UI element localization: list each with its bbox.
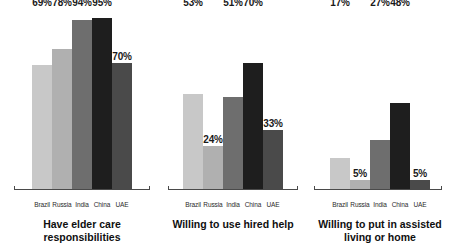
tick-label-uae: UAE: [112, 201, 132, 208]
bar-rect: [410, 180, 430, 189]
tick-label-china: China: [243, 201, 263, 208]
bar-rect: [263, 130, 283, 189]
bar-value-label: 69%: [32, 0, 51, 8]
group-title-line-1: Have elder care: [4, 218, 160, 231]
bar-value-label: 51%: [223, 0, 242, 8]
tick-labels-group-1: Brazil Russia India China UAE: [4, 201, 160, 208]
bar-rect: [243, 63, 263, 189]
group-title-line-2: living or home: [306, 231, 454, 244]
bar-value-label: 17%: [330, 0, 349, 8]
bar-group-1-russia: 78%: [52, 9, 72, 189]
tick-labels-group-2: Brazil Russia India China UAE: [160, 201, 306, 208]
tick-label-india: India: [72, 201, 92, 208]
grouped-bar-chart: 69% 78% 94% 95% 70% Brazil Russia: [0, 0, 454, 252]
axis-line-group-1: [14, 189, 150, 190]
bar-rect: [32, 65, 52, 189]
tick-label-china: China: [390, 201, 410, 208]
bar-rect: [92, 18, 112, 189]
tick-labels-group-3: Brazil Russia India China UAE: [306, 201, 454, 208]
bar-rect: [370, 140, 390, 189]
bar-group-1-brazil: 69%: [32, 9, 52, 189]
bar-rect: [390, 103, 410, 189]
bar-group-3-uae: 5%: [410, 9, 430, 189]
axis-line-group-3: [314, 189, 442, 190]
tick-label-china: China: [92, 201, 112, 208]
bar-value-label: 53%: [183, 0, 202, 8]
tick-label-brazil: Brazil: [330, 201, 350, 208]
group-title-hired-help: Willing to use hired help: [160, 218, 306, 231]
bar-value-label: 95%: [92, 0, 111, 8]
group-title-line-1: Willing to put in assisted: [306, 218, 454, 231]
group-title-assisted-living: Willing to put in assisted living or hom…: [306, 218, 454, 244]
bar-rect: [183, 94, 203, 189]
bar-rect: [112, 63, 132, 189]
bar-value-label: 33%: [263, 118, 282, 129]
chart-group-elder-care: 69% 78% 94% 95% 70% Brazil Russia: [4, 0, 160, 252]
tick-label-india: India: [370, 201, 390, 208]
plot-area-group-2: 53% 24% 51% 70% 33%: [160, 9, 306, 189]
group-title-elder-care: Have elder care responsibilities: [4, 218, 160, 244]
bar-group-3-brazil: 17%: [330, 9, 350, 189]
bar-value-label: 48%: [390, 0, 409, 8]
tick-label-uae: UAE: [410, 201, 430, 208]
chart-group-assisted-living: 17% 5% 27% 48% 5% Brazil Russia: [306, 0, 454, 252]
bar-value-label: 24%: [203, 134, 222, 145]
bar-value-label: 78%: [52, 0, 71, 8]
axis-line-group-2: [168, 189, 298, 190]
bar-group-1-uae: 70%: [112, 9, 132, 189]
bar-value-label: 5%: [353, 168, 367, 179]
tick-label-russia: Russia: [52, 201, 72, 208]
bar-value-label: 27%: [370, 0, 389, 8]
bar-group-1-india: 94%: [72, 9, 92, 189]
bar-rect: [203, 146, 223, 189]
bar-rect: [52, 49, 72, 189]
tick-label-uae: UAE: [263, 201, 283, 208]
bar-rect: [72, 20, 92, 189]
bar-group-2-uae: 33%: [263, 9, 283, 189]
bar-value-label: 70%: [243, 0, 262, 8]
bar-value-label: 70%: [112, 51, 131, 62]
plot-area-group-1: 69% 78% 94% 95% 70%: [4, 9, 160, 189]
group-title-line-1: Willing to use hired help: [160, 218, 306, 231]
bar-group-2-china: 70%: [243, 9, 263, 189]
bar-value-label: 94%: [72, 0, 91, 8]
bar-rect: [350, 180, 370, 189]
bar-group-1-china: 95%: [92, 9, 112, 189]
bar-group-3-india: 27%: [370, 9, 390, 189]
bar-rect: [330, 158, 350, 189]
bar-group-3-russia: 5%: [350, 9, 370, 189]
plot-area-group-3: 17% 5% 27% 48% 5%: [306, 9, 454, 189]
tick-label-russia: Russia: [203, 201, 223, 208]
tick-label-india: India: [223, 201, 243, 208]
bar-rect: [223, 97, 243, 189]
bar-group-2-brazil: 53%: [183, 9, 203, 189]
tick-label-brazil: Brazil: [183, 201, 203, 208]
bar-group-3-china: 48%: [390, 9, 410, 189]
bar-group-2-russia: 24%: [203, 9, 223, 189]
chart-group-hired-help: 53% 24% 51% 70% 33% Brazil Russia: [160, 0, 306, 252]
tick-label-brazil: Brazil: [32, 201, 52, 208]
tick-label-russia: Russia: [350, 201, 370, 208]
group-title-line-2: responsibilities: [4, 231, 160, 244]
bar-value-label: 5%: [413, 168, 427, 179]
bar-group-2-india: 51%: [223, 9, 243, 189]
